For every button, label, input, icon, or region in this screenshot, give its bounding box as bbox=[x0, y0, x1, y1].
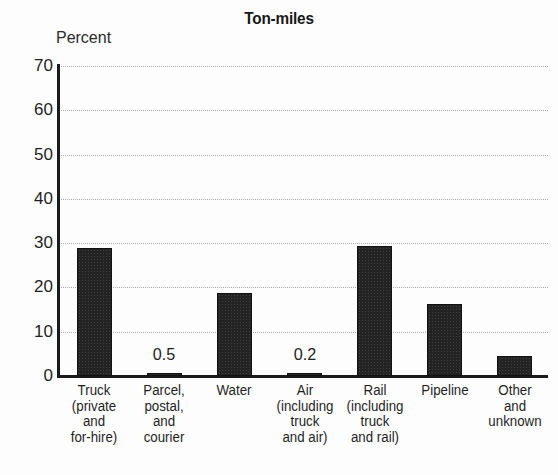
bar bbox=[147, 373, 182, 376]
x-axis-category-label: Water bbox=[196, 383, 272, 399]
x-axis-category-label: Truck(privateandfor-hire) bbox=[56, 383, 132, 445]
category-label-line: Other bbox=[477, 383, 553, 399]
y-axis-tick-label: 10 bbox=[0, 323, 53, 340]
category-label-line: unknown bbox=[477, 414, 553, 430]
bar bbox=[497, 356, 532, 376]
category-label-line: Truck bbox=[56, 383, 132, 399]
category-label-line: truck bbox=[267, 414, 343, 430]
category-label-line: and bbox=[126, 414, 202, 430]
bar bbox=[217, 293, 252, 376]
category-label-line: courier bbox=[126, 430, 202, 446]
x-axis-category-label: Parcel,postal,andcourier bbox=[126, 383, 202, 445]
y-axis-tick-label: 40 bbox=[0, 190, 53, 207]
category-label-line: Water bbox=[196, 383, 272, 399]
y-axis-tick-label: 70 bbox=[0, 57, 53, 74]
category-label-line: and bbox=[56, 414, 132, 430]
category-label-line: Parcel, bbox=[126, 383, 202, 399]
x-axis-category-label: Rail(includingtruckand rail) bbox=[337, 383, 413, 445]
category-label-line: and rail) bbox=[337, 430, 413, 446]
category-label-line: Rail bbox=[337, 383, 413, 399]
category-label-line: Pipeline bbox=[407, 383, 483, 399]
y-axis-tick-label: 60 bbox=[0, 101, 53, 118]
category-label-line: and air) bbox=[267, 430, 343, 446]
category-label-line: (including bbox=[267, 399, 343, 415]
bar bbox=[287, 373, 322, 376]
plot-area bbox=[57, 66, 548, 376]
y-axis-tick-label: 20 bbox=[0, 278, 53, 295]
chart-container: Ton-miles Percent 010203040506070 0.50.2… bbox=[0, 0, 558, 475]
category-label-line: and bbox=[477, 399, 553, 415]
bar bbox=[77, 248, 112, 376]
category-label-line: (private bbox=[56, 399, 132, 415]
bar bbox=[427, 304, 462, 376]
x-axis-category-label: Air(includingtruckand air) bbox=[267, 383, 343, 445]
category-label-line: postal, bbox=[126, 399, 202, 415]
y-axis-tick-label: 30 bbox=[0, 234, 53, 251]
bar-value-label: 0.5 bbox=[136, 345, 193, 365]
bar bbox=[357, 246, 392, 376]
bar-value-label: 0.2 bbox=[277, 345, 334, 365]
y-axis-label: Percent bbox=[56, 28, 111, 48]
category-label-line: for-hire) bbox=[56, 430, 132, 446]
chart-title: Ton-miles bbox=[28, 9, 530, 29]
category-label-line: (including bbox=[337, 399, 413, 415]
category-label-line: Air bbox=[267, 383, 343, 399]
y-axis-tick-label: 0 bbox=[0, 367, 53, 384]
x-axis-category-label: Pipeline bbox=[407, 383, 483, 399]
y-axis-tick-label: 50 bbox=[0, 146, 53, 163]
category-label-line: truck bbox=[337, 414, 413, 430]
x-axis-category-label: Otherandunknown bbox=[477, 383, 553, 430]
